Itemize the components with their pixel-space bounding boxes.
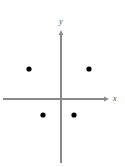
scatter-plot-figure: y x: [0, 0, 125, 167]
y-axis-arrowhead: [59, 30, 64, 35]
data-point-lower-right: [71, 112, 76, 117]
data-point-upper-right: [86, 66, 91, 71]
data-point-upper-left: [26, 66, 31, 71]
x-axis-label: x: [113, 95, 117, 103]
y-axis-label: y: [59, 18, 63, 26]
x-axis-arrowhead: [104, 97, 109, 102]
data-point-lower-left: [40, 112, 45, 117]
